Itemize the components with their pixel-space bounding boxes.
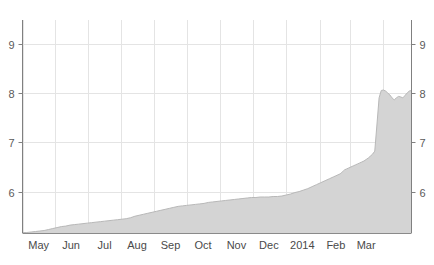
area-chart: 6789 6789 MayJunJulAugSepOctNovDec2014Fe… xyxy=(0,0,434,265)
y-axis-label-right: 6 xyxy=(420,187,426,199)
x-axis-label: Aug xyxy=(127,239,147,251)
x-axis-label: Oct xyxy=(194,239,211,251)
chart-container: 6789 6789 MayJunJulAugSepOctNovDec2014Fe… xyxy=(0,0,434,265)
y-axis-label-left: 7 xyxy=(8,137,14,149)
x-axis-label: Sep xyxy=(161,239,181,251)
y-axis-label-right: 7 xyxy=(420,137,426,149)
x-axis-label: May xyxy=(28,239,49,251)
x-axis-label: Mar xyxy=(357,239,376,251)
y-axis-label-right: 9 xyxy=(420,39,426,51)
x-axis-label: Nov xyxy=(227,239,247,251)
x-axis-label: Jun xyxy=(62,239,80,251)
x-axis-label: Feb xyxy=(326,239,345,251)
y-axis-label-right: 8 xyxy=(420,88,426,100)
y-axis-label-left: 9 xyxy=(8,39,14,51)
x-axis-label: Dec xyxy=(259,239,279,251)
y-axis-label-left: 8 xyxy=(8,88,14,100)
x-axis-label: 2014 xyxy=(290,239,314,251)
x-axis-label: Jul xyxy=(98,239,112,251)
y-axis-label-left: 6 xyxy=(8,187,14,199)
